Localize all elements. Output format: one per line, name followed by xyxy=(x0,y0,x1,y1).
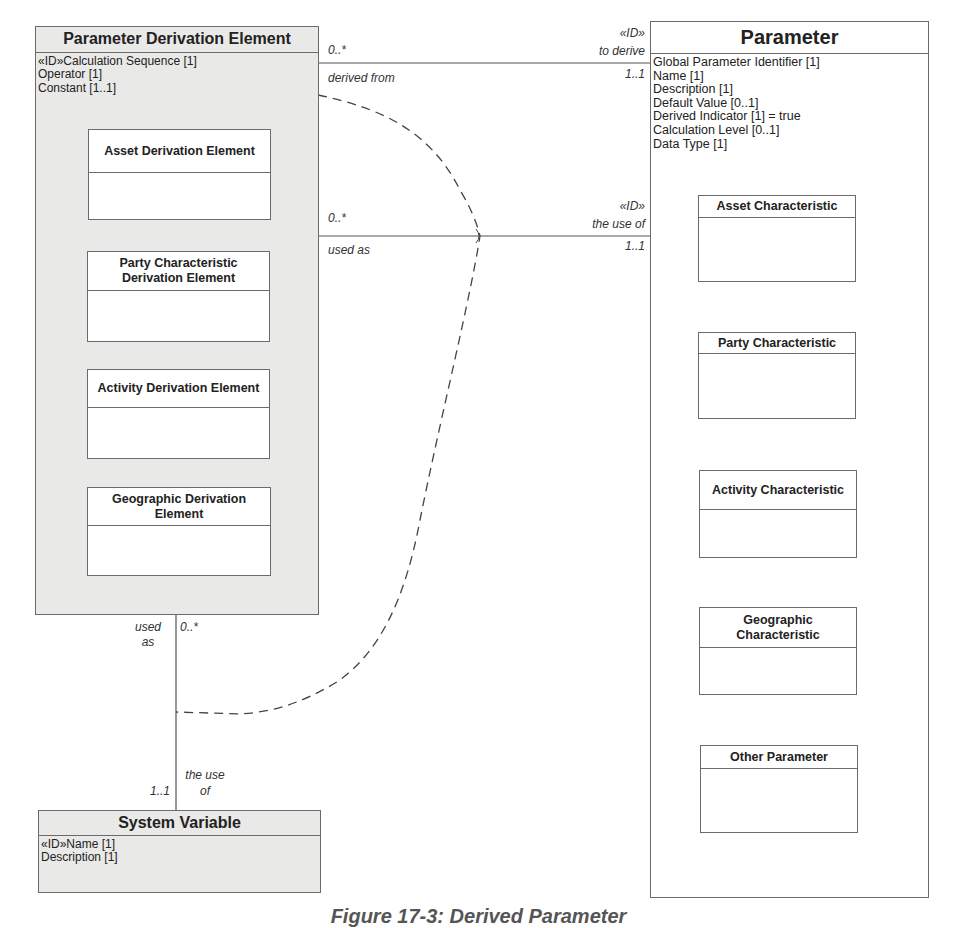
use-parameter-source-multiplicity: 0..* xyxy=(328,212,346,225)
derive-target-role: to derive xyxy=(599,45,645,58)
attribute: Data Type [1] xyxy=(653,138,926,152)
class-title: Parameter xyxy=(651,22,928,54)
class-title: System Variable xyxy=(39,811,320,836)
use-sysvar-target-role-line2: of xyxy=(180,785,230,798)
use-sysvar-source-multiplicity: 0..* xyxy=(180,621,198,634)
derive-target-multiplicity: 1..1 xyxy=(625,68,645,81)
class-title: Party Characteristic Derivation Element xyxy=(88,252,269,291)
class-party-characteristic[interactable]: Party Characteristic xyxy=(698,332,856,419)
class-title: Party Characteristic xyxy=(699,333,855,354)
class-other-parameter[interactable]: Other Parameter xyxy=(700,745,858,833)
attribute-list: «ID»Calculation Sequence [1] Operator [1… xyxy=(36,53,318,95)
class-title: Asset Derivation Element xyxy=(89,130,270,173)
attribute: «ID»Calculation Sequence [1] xyxy=(38,55,316,68)
derive-target-stereotype: «ID» xyxy=(620,27,645,40)
attribute: Constant [1..1] xyxy=(38,82,316,95)
attribute: Derived Indicator [1] = true xyxy=(653,110,926,124)
class-title: Asset Characteristic xyxy=(699,196,855,218)
attribute: Global Parameter Identifier [1] xyxy=(653,56,926,70)
class-geographic-characteristic[interactable]: Geographic Characteristic xyxy=(699,607,857,695)
class-party-characteristic-derivation-element[interactable]: Party Characteristic Derivation Element xyxy=(87,251,270,342)
use-parameter-target-stereotype: «ID» xyxy=(620,200,645,213)
class-title: Activity Characteristic xyxy=(700,471,856,510)
class-geographic-derivation-element[interactable]: Geographic Derivation Element xyxy=(87,487,271,576)
use-sysvar-target-role-line1: the use xyxy=(180,769,230,782)
class-activity-derivation-element[interactable]: Activity Derivation Element xyxy=(87,369,270,459)
class-title: Geographic Characteristic xyxy=(700,608,856,648)
class-asset-characteristic[interactable]: Asset Characteristic xyxy=(698,195,856,282)
attribute: Operator [1] xyxy=(38,68,316,81)
attribute: Description [1] xyxy=(653,83,926,97)
class-asset-derivation-element[interactable]: Asset Derivation Element xyxy=(88,129,271,220)
class-title: Parameter Derivation Element xyxy=(36,27,318,53)
use-parameter-target-multiplicity: 1..1 xyxy=(625,240,645,253)
derive-source-role: derived from xyxy=(328,72,395,85)
class-title: Other Parameter xyxy=(701,746,857,769)
use-parameter-target-role: the use of xyxy=(592,218,645,231)
use-sysvar-source-role-line2: as xyxy=(128,636,168,649)
attribute-list: «ID»Name [1] Description [1] xyxy=(39,836,320,865)
use-sysvar-source-role-line1: used xyxy=(128,621,168,634)
use-sysvar-target-multiplicity: 1..1 xyxy=(128,785,170,798)
figure-caption: Figure 17-3: Derived Parameter xyxy=(0,905,957,928)
attribute-list: Global Parameter Identifier [1] Name [1]… xyxy=(651,54,928,151)
attribute: Description [1] xyxy=(41,851,318,864)
class-title: Activity Derivation Element xyxy=(88,370,269,408)
class-activity-characteristic[interactable]: Activity Characteristic xyxy=(699,470,857,558)
use-parameter-source-role: used as xyxy=(328,244,370,257)
class-system-variable[interactable]: System Variable «ID»Name [1] Description… xyxy=(38,810,321,893)
attribute: Calculation Level [0..1] xyxy=(653,124,926,138)
derive-source-multiplicity: 0..* xyxy=(328,44,346,57)
attribute: «ID»Name [1] xyxy=(41,838,318,851)
class-title: Geographic Derivation Element xyxy=(88,488,270,526)
attribute: Name [1] xyxy=(653,70,926,84)
attribute: Default Value [0..1] xyxy=(653,97,926,111)
